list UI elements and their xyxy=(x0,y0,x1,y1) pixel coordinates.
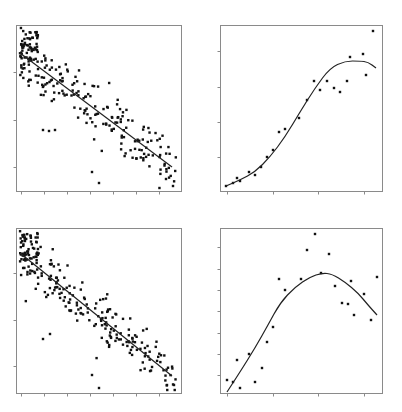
data-point xyxy=(142,138,144,140)
data-point xyxy=(26,273,28,275)
data-point xyxy=(33,247,35,249)
data-point xyxy=(20,64,22,66)
data-point xyxy=(111,128,113,130)
data-point xyxy=(37,283,39,285)
data-point xyxy=(80,288,82,290)
data-point xyxy=(123,155,125,157)
data-point xyxy=(98,182,100,184)
data-point xyxy=(95,357,97,359)
data-point xyxy=(248,353,250,355)
data-point xyxy=(45,64,47,66)
data-point xyxy=(261,367,263,369)
panel-bottom-right xyxy=(218,229,383,397)
data-point xyxy=(110,337,112,339)
data-point xyxy=(44,67,46,69)
data-point xyxy=(35,43,37,45)
data-point xyxy=(69,298,71,300)
data-point xyxy=(102,298,104,300)
data-point xyxy=(326,80,328,82)
data-point xyxy=(21,49,23,51)
data-point xyxy=(77,116,79,118)
data-point xyxy=(28,63,30,65)
data-point xyxy=(65,63,67,65)
data-point xyxy=(346,80,348,82)
data-point xyxy=(101,311,103,313)
data-point xyxy=(37,276,39,278)
data-point xyxy=(120,121,122,123)
data-point xyxy=(143,153,145,155)
data-point xyxy=(152,154,154,156)
data-point xyxy=(24,240,26,242)
data-point xyxy=(58,288,60,290)
data-point xyxy=(47,294,49,296)
data-point xyxy=(120,142,122,144)
data-point xyxy=(76,80,78,82)
data-point xyxy=(37,248,39,250)
data-point xyxy=(50,263,52,265)
data-point xyxy=(50,259,52,261)
data-point xyxy=(87,93,89,95)
data-point xyxy=(151,366,153,368)
data-point xyxy=(51,100,53,102)
data-point xyxy=(29,257,31,259)
data-point xyxy=(124,152,126,154)
data-point xyxy=(20,43,22,45)
data-point xyxy=(138,149,140,151)
data-point xyxy=(129,317,131,319)
data-point xyxy=(66,68,68,70)
data-point xyxy=(105,297,107,299)
data-point xyxy=(115,333,117,335)
data-point xyxy=(154,132,156,134)
data-point xyxy=(94,125,96,127)
data-point xyxy=(94,307,96,309)
data-point xyxy=(20,258,22,260)
data-point xyxy=(83,83,85,85)
data-point xyxy=(27,252,29,254)
data-point xyxy=(319,89,321,91)
data-point xyxy=(88,319,90,321)
data-point xyxy=(313,80,315,82)
data-point xyxy=(45,296,47,298)
data-point xyxy=(61,90,63,92)
data-point xyxy=(122,318,124,320)
data-point xyxy=(164,379,166,381)
data-point xyxy=(150,140,152,142)
data-point xyxy=(146,345,148,347)
data-point xyxy=(58,66,60,68)
data-point xyxy=(172,185,174,187)
data-point xyxy=(99,299,101,301)
data-point xyxy=(239,387,241,389)
data-point xyxy=(140,149,142,151)
data-point xyxy=(333,87,335,89)
data-point xyxy=(20,241,22,243)
data-point xyxy=(157,356,159,358)
data-point xyxy=(111,116,113,118)
data-point xyxy=(108,124,110,126)
data-point xyxy=(128,328,130,330)
data-point xyxy=(33,58,35,60)
data-point xyxy=(266,156,268,158)
data-point xyxy=(142,159,144,161)
data-point xyxy=(123,136,125,138)
data-point xyxy=(36,46,38,48)
data-point xyxy=(26,233,28,235)
data-point xyxy=(147,141,149,143)
regression-line xyxy=(20,53,172,167)
data-point xyxy=(365,74,367,76)
data-point xyxy=(68,285,70,287)
data-point xyxy=(108,82,110,84)
data-point xyxy=(40,94,42,96)
data-point xyxy=(106,293,108,295)
data-point xyxy=(86,113,88,115)
data-point xyxy=(120,118,122,120)
data-point xyxy=(129,149,131,151)
data-point xyxy=(65,94,67,96)
data-point xyxy=(116,337,118,339)
data-point xyxy=(164,374,166,376)
data-point xyxy=(144,347,146,349)
data-point xyxy=(284,289,286,291)
data-point xyxy=(106,341,108,343)
data-point xyxy=(22,243,24,245)
data-point xyxy=(76,304,78,306)
data-point xyxy=(131,346,133,348)
